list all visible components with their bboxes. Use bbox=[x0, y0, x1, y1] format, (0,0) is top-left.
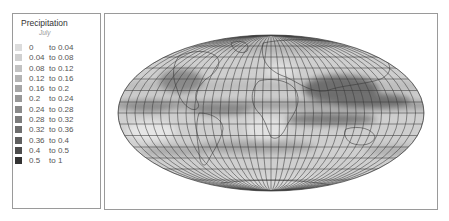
legend-swatch bbox=[15, 95, 22, 102]
legend-panel: Precipitation July 0to 0.040.04to 0.080.… bbox=[12, 13, 101, 209]
legend-swatch bbox=[15, 44, 22, 51]
legend-item: 0.04to 0.08 bbox=[15, 52, 99, 62]
legend-swatch bbox=[15, 54, 22, 61]
world-precipitation-map bbox=[105, 14, 437, 209]
legend-item: 0.4to 0.5 bbox=[15, 145, 99, 155]
legend-range-high: to 1 bbox=[49, 155, 62, 166]
legend-swatch bbox=[15, 106, 22, 113]
legend-subtitle: July bbox=[13, 29, 100, 36]
legend-swatch bbox=[15, 65, 22, 72]
legend-range-low: 0.5 bbox=[29, 155, 40, 166]
precipitation-field bbox=[105, 35, 437, 191]
legend-item: 0to 0.04 bbox=[15, 42, 99, 52]
legend-item: 0.24to 0.28 bbox=[15, 104, 99, 114]
legend-item: 0.16to 0.2 bbox=[15, 83, 99, 93]
legend-swatch bbox=[15, 75, 22, 82]
legend-swatch bbox=[15, 85, 22, 92]
legend-item: 0.2to 0.24 bbox=[15, 93, 99, 103]
legend-item: 0.28to 0.32 bbox=[15, 114, 99, 124]
legend-item: 0.5to 1 bbox=[15, 155, 99, 165]
legend-swatch bbox=[15, 157, 22, 164]
legend-item: 0.36to 0.4 bbox=[15, 135, 99, 145]
legend-swatch bbox=[15, 147, 22, 154]
legend-rows: 0to 0.040.04to 0.080.08to 0.120.12to 0.1… bbox=[15, 42, 99, 166]
legend-swatch bbox=[15, 137, 22, 144]
legend-title: Precipitation bbox=[13, 18, 100, 28]
legend-item: 0.08to 0.12 bbox=[15, 63, 99, 73]
legend-swatch bbox=[15, 116, 22, 123]
legend-item: 0.32to 0.36 bbox=[15, 124, 99, 134]
map-panel bbox=[104, 13, 438, 210]
legend-swatch bbox=[15, 126, 22, 133]
legend-item: 0.12to 0.16 bbox=[15, 73, 99, 83]
